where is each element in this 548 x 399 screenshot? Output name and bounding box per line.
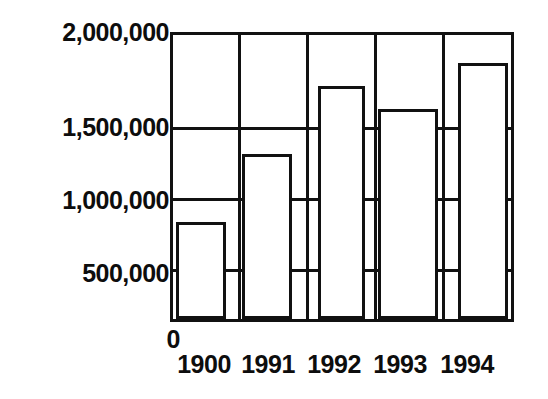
plot-area (170, 32, 514, 322)
y-axis-tick-label-500000: 500,000 (82, 261, 169, 286)
x-axis-tick-label-1992: 1992 (307, 352, 361, 377)
bar-1992 (318, 86, 365, 319)
bar-1994 (458, 63, 508, 319)
bar-1991 (242, 154, 292, 319)
category-separator-2 (306, 35, 309, 319)
y-axis-tick-label-1000000: 1,000,000 (62, 188, 169, 213)
x-axis-tick-label-1991: 1991 (241, 352, 295, 377)
category-separator-1 (238, 35, 241, 319)
y-axis-tick-label-2000000: 2,000,000 (62, 20, 169, 45)
x-axis-tick-label-1994: 1994 (440, 352, 494, 377)
bar-chart-figure: 2,000,000 1,500,000 1,000,000 500,000 0 … (0, 0, 548, 399)
category-separator-4 (442, 35, 445, 319)
category-separator-3 (374, 35, 377, 319)
x-axis-tick-label-1993: 1993 (373, 352, 427, 377)
bar-1993 (378, 109, 438, 319)
y-axis-tick-label-1500000: 1,500,000 (62, 115, 169, 140)
x-axis-tick-label-1900: 1900 (177, 352, 231, 377)
plot-inner (173, 35, 511, 319)
y-axis-tick-label-0: 0 (167, 327, 180, 352)
bar-1900 (176, 222, 226, 319)
